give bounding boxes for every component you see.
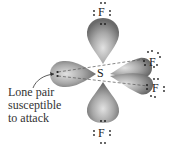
annotation-line-3: to attack [8,112,61,125]
lone-pair-annotation: Lone pair susceptible to attack [8,86,61,125]
fluorine-lone-pairs [0,0,172,148]
